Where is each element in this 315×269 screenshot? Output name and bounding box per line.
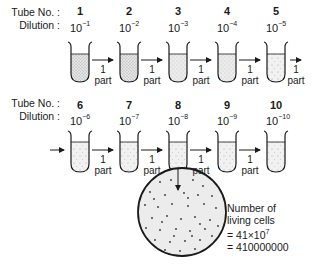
dilution-label-row1: Dilution : [4,19,60,31]
tube-number: 1 [65,5,95,17]
transfer-label: 1part [235,154,265,176]
result-line-1: Number of [227,202,289,214]
dilution-value: 10−7 [109,112,149,127]
tube-no-label-row1: Tube No. : [4,6,60,18]
transfer-label: 1part [186,154,216,176]
transfer-label: 1part [137,64,167,86]
dilution-value: 10−1 [60,19,100,34]
tube-number: 9 [212,99,242,111]
tube-number: 5 [261,5,291,17]
dilution-label-row2: Dilution : [4,110,60,122]
dilution-value: 10−6 [60,112,100,127]
tube-no-label-row2: Tube No. : [4,97,60,109]
transfer-label: 1part [88,154,118,176]
transfer-label: 1part [281,64,311,86]
agar-plate [138,168,226,256]
tube-number: 6 [65,99,95,111]
transfer-label: 1part [88,64,118,86]
tube-number: 8 [163,99,193,111]
dilution-value: 10−2 [109,19,149,34]
colony-count-result: Number of living cells = 41×107 = 410000… [227,202,289,253]
dilution-value: 10−10 [258,112,298,127]
transfer-label: 1part [186,64,216,86]
tube-number: 2 [114,5,144,17]
dilution-value: 10−5 [256,19,296,34]
tube-10 [264,131,288,172]
tube-number: 7 [114,99,144,111]
result-line-4: = 410000000 [227,241,289,253]
transfer-label: 1part [235,64,265,86]
tube-number: 10 [261,99,291,111]
dilution-value: 10−4 [207,19,247,34]
tube-number: 3 [163,5,193,17]
result-line-2: living cells [227,214,289,226]
transfer-label: 1part [137,154,167,176]
dilution-value: 10−8 [158,112,198,127]
dilution-value: 10−3 [158,19,198,34]
result-line-3: = 41×107 [227,226,289,241]
dilution-value: 10−9 [207,112,247,127]
tube-number: 4 [212,5,242,17]
